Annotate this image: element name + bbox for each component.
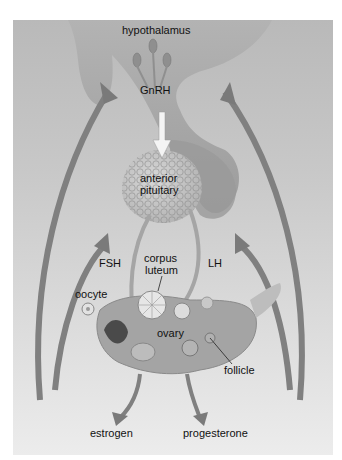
follicle bbox=[131, 343, 155, 361]
label-follicle: follicle bbox=[224, 364, 255, 376]
label-oocyte: oocyte bbox=[75, 288, 107, 300]
label-corpus: corpus bbox=[144, 252, 177, 264]
label-ovary: ovary bbox=[157, 327, 184, 339]
label-luteum: luteum bbox=[145, 264, 178, 276]
estrogen-arrow bbox=[120, 374, 140, 418]
label-hypothalamus: hypothalamus bbox=[122, 24, 191, 36]
follicle bbox=[182, 340, 198, 356]
feedback-arrowhead-icon bbox=[220, 82, 236, 105]
progesterone-arrowhead-icon bbox=[193, 412, 208, 426]
label-lh: LH bbox=[208, 257, 222, 269]
label-gnrh: GnRH bbox=[140, 84, 171, 96]
label-fsh: FSH bbox=[99, 257, 121, 269]
label-anterior: anterior bbox=[140, 172, 177, 184]
label-pituitary: pituitary bbox=[140, 184, 179, 196]
progesterone-arrow bbox=[187, 374, 200, 418]
diagram-artwork bbox=[0, 0, 342, 460]
label-progesterone: progesterone bbox=[183, 427, 248, 439]
label-estrogen: estrogen bbox=[90, 427, 133, 439]
lh-pathway bbox=[178, 210, 199, 310]
